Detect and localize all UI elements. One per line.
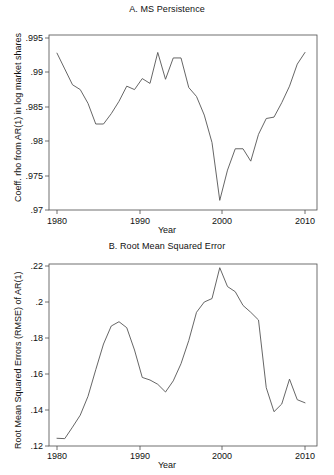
panel-a-y-ticks: .995 .99 .985 .98 .975 .97 — [25, 33, 49, 215]
panel-a-series-line — [57, 52, 305, 200]
panel-b-ytick-3: .16 — [30, 369, 43, 379]
panel-a-xtick-2: 2000 — [212, 216, 232, 226]
panel-a-ytick-0: .995 — [25, 33, 43, 43]
panel-b-x-ticks: 1980 1990 2000 2010 — [47, 446, 315, 461]
panel-ms-persistence: A. MS Persistence Coeff. rho from AR(1) … — [0, 0, 334, 238]
panel-a-xtick-3: 2010 — [295, 216, 315, 226]
panel-b-series-line — [57, 268, 305, 439]
panel-b-plot-frame — [49, 264, 317, 446]
panel-a-x-ticks: 1980 1990 2000 2010 — [47, 210, 315, 226]
panel-b-ytick-2: .18 — [30, 333, 43, 343]
panel-b-y-ticks: .22 .2 .18 .16 .14 .12 — [30, 261, 49, 451]
panel-a-ytick-3: .98 — [30, 136, 43, 146]
panel-a-ytick-4: .975 — [25, 171, 43, 181]
panel-b-plot: .22 .2 .18 .16 .14 .12 1980 1990 2000 20… — [0, 237, 334, 475]
panel-b-xtick-1: 1990 — [130, 451, 150, 461]
panel-a-ytick-5: .97 — [30, 205, 43, 215]
panel-b-ytick-4: .14 — [30, 405, 43, 415]
panel-b-xtick-2: 2000 — [212, 451, 232, 461]
panel-b-xtick-3: 2010 — [295, 451, 315, 461]
panel-a-plot: .995 .99 .985 .98 .975 .97 1980 1990 200… — [0, 0, 334, 238]
panel-a-xtick-1: 1990 — [130, 216, 150, 226]
panel-b-ytick-5: .12 — [30, 441, 43, 451]
panel-a-ytick-1: .99 — [30, 67, 43, 77]
panel-a-xtick-0: 1980 — [47, 216, 67, 226]
panel-a-plot-frame — [49, 35, 317, 210]
panel-b-ytick-1: .2 — [35, 297, 43, 307]
panel-root-mean-squared-error: B. Root Mean Squared Error Root Mean Squ… — [0, 237, 334, 475]
panel-b-xtick-0: 1980 — [47, 451, 67, 461]
figure-container: A. MS Persistence Coeff. rho from AR(1) … — [0, 0, 334, 475]
panel-a-ytick-2: .985 — [25, 102, 43, 112]
panel-b-ytick-0: .22 — [30, 261, 43, 271]
